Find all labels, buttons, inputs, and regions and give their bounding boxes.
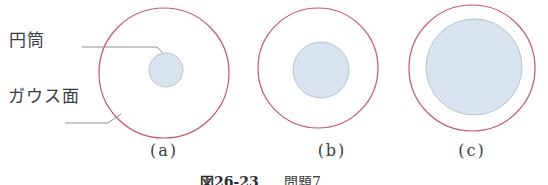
gauss-surface-leader-line bbox=[65, 114, 121, 123]
cylinder-leader-line bbox=[82, 47, 164, 54]
textbook-figure: 円筒 ガウス面 (a) (b) (c) 図26-23 問題7 bbox=[0, 0, 548, 185]
cylinder-circle-b bbox=[293, 42, 349, 98]
panel-label-a: (a) bbox=[134, 143, 194, 159]
cylinder-label: 円筒 bbox=[9, 32, 45, 49]
gauss-surface-label: ガウス面 bbox=[8, 88, 80, 105]
figure-caption-title: 問題7 bbox=[284, 175, 321, 185]
panel-label-b: (b) bbox=[302, 143, 362, 159]
cylinder-circle-a bbox=[149, 53, 183, 87]
cylinder-circle-c bbox=[426, 19, 522, 115]
panel-label-c: (c) bbox=[442, 143, 502, 159]
figure-caption-number: 図26-23 bbox=[200, 175, 259, 185]
